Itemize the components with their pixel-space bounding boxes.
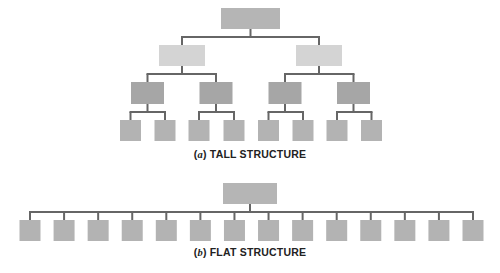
caption-text: TALL STRUCTURE [210,148,306,160]
employee-box [224,120,245,141]
employee-box [293,120,314,141]
employee-box [156,220,177,241]
employee-box [326,220,347,241]
employee-box [360,220,381,241]
tall-structure-tree [120,8,382,141]
middle-manager-box [296,45,342,66]
middle-manager-box [159,45,205,66]
caption-text: FLAT STRUCTURE [210,246,307,258]
employee-box [88,220,109,241]
employee-box [394,220,415,241]
supervisor-box [131,82,164,104]
employee-box [292,220,313,241]
employee-box [20,220,41,241]
employee-box [120,120,141,141]
org-structure-diagram [0,0,500,273]
employee-box [189,120,210,141]
employee-box [258,220,279,241]
tall-structure-caption: (a) TALL STRUCTURE [0,148,500,160]
caption-letter: b [197,247,202,258]
employee-box [155,120,176,141]
top-manager-box [221,8,280,29]
employee-box [428,220,449,241]
caption-letter: a [198,149,203,160]
employee-box [361,120,382,141]
employee-box [190,220,211,241]
supervisor-box [337,82,370,104]
flat-structure-caption: (b) FLAT STRUCTURE [0,246,500,258]
supervisor-box [200,82,233,104]
supervisor-box [269,82,302,104]
employee-box [463,220,484,241]
employee-box [122,220,143,241]
employee-box [327,120,348,141]
employee-box [54,220,75,241]
flat-structure-tree [20,183,484,241]
employee-box [258,120,279,141]
top-manager-box [223,183,277,204]
employee-box [224,220,245,241]
